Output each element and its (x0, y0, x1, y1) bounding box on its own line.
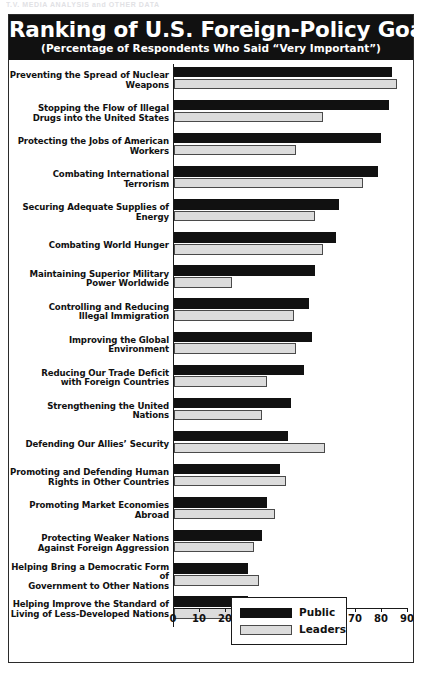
bar-group (173, 229, 413, 262)
legend-label-public: Public (299, 607, 335, 618)
category-label: Reducing Our Trade Deficitwith Foreign C… (9, 369, 173, 388)
bar-group (173, 494, 413, 527)
bar-leaders (174, 376, 267, 387)
axis-tick-label: 20 (218, 613, 232, 624)
bar-group (173, 329, 413, 362)
bar-leaders (174, 575, 259, 586)
axis-tick-label: 90 (400, 613, 414, 624)
chart-subtitle: (Percentage of Respondents Who Said “Ver… (9, 42, 413, 55)
axis-tick-label: 10 (192, 613, 206, 624)
chart-row: Improving the Global Environment (9, 329, 413, 362)
legend-item-public: Public (240, 605, 346, 620)
bar-group (173, 395, 413, 428)
chart-row: Promoting and Defending HumanRights in O… (9, 461, 413, 494)
bar-public (174, 497, 267, 508)
bar-public (174, 530, 262, 541)
category-label: Promoting Market Economies Abroad (9, 501, 173, 520)
category-label: Preventing the Spread of Nuclear Weapons (9, 71, 173, 90)
chart-row: Defending Our Allies’ Security (9, 428, 413, 461)
bar-leaders (174, 178, 363, 189)
chart-row: Controlling and ReducingIllegal Immigrat… (9, 296, 413, 329)
axis-tick-label: 0 (170, 613, 177, 624)
category-label: Helping Bring a Democratic Form ofGovern… (9, 563, 173, 592)
bar-group (173, 428, 413, 461)
axis-tick (355, 608, 356, 612)
axis-tick (225, 608, 226, 612)
bar-public (174, 464, 280, 475)
bar-leaders (174, 277, 232, 288)
chart-title: Ranking of U.S. Foreign-Policy Goals (9, 19, 413, 41)
bar-public (174, 67, 392, 78)
bar-leaders (174, 211, 315, 222)
bar-leaders (174, 509, 275, 520)
bar-public (174, 298, 309, 309)
category-label: Combating International Terrorism (9, 170, 173, 189)
bar-public (174, 365, 304, 376)
chart-row: Protecting the Jobs of American Workers (9, 130, 413, 163)
chart-row: Securing Adequate Supplies of Energy (9, 196, 413, 229)
category-label: Helping Improve the Standard ofLiving of… (9, 600, 173, 619)
legend-swatch-public (240, 608, 292, 618)
chart-row: Strengthening the United Nations (9, 395, 413, 428)
bar-public (174, 199, 339, 210)
bar-public (174, 332, 312, 343)
bar-group (173, 64, 413, 97)
legend-swatch-leaders (240, 625, 292, 635)
axis-tick (407, 608, 408, 612)
category-label: Combating World Hunger (9, 241, 173, 251)
bar-public (174, 398, 291, 409)
bar-leaders (174, 476, 286, 487)
bar-public (174, 265, 315, 276)
bar-group (173, 263, 413, 296)
chart-row: Helping Bring a Democratic Form ofGovern… (9, 560, 413, 593)
chart-legend: Public Leaders (231, 597, 347, 645)
bar-group (173, 163, 413, 196)
chart-row: Promoting Market Economies Abroad (9, 494, 413, 527)
axis-tick-label: 70 (348, 613, 362, 624)
bar-rows: Preventing the Spread of Nuclear Weapons… (9, 64, 413, 627)
category-label: Promoting and Defending HumanRights in O… (9, 468, 173, 487)
bar-leaders (174, 79, 397, 90)
bar-public (174, 166, 378, 177)
chart-row: Combating World Hunger (9, 229, 413, 262)
category-label: Controlling and ReducingIllegal Immigrat… (9, 303, 173, 322)
chart-row: Stopping the Flow of IllegalDrugs into t… (9, 97, 413, 130)
bar-group (173, 560, 413, 593)
bar-leaders (174, 244, 323, 255)
axis-tick-label: 80 (374, 613, 388, 624)
category-label: Protecting the Jobs of American Workers (9, 137, 173, 156)
category-label: Strengthening the United Nations (9, 402, 173, 421)
category-label: Maintaining Superior MilitaryPower World… (9, 270, 173, 289)
bar-public (174, 100, 389, 111)
category-label: Securing Adequate Supplies of Energy (9, 203, 173, 222)
chart-row: Protecting Weaker NationsAgainst Foreign… (9, 527, 413, 560)
legend-item-leaders: Leaders (240, 622, 346, 637)
bar-group (173, 196, 413, 229)
legend-label-leaders: Leaders (299, 624, 346, 635)
bar-group (173, 130, 413, 163)
chart-row: Combating International Terrorism (9, 163, 413, 196)
bar-leaders (174, 443, 325, 454)
category-label: Stopping the Flow of IllegalDrugs into t… (9, 104, 173, 123)
bar-group (173, 296, 413, 329)
bar-leaders (174, 145, 296, 156)
bar-leaders (174, 410, 262, 421)
bar-public (174, 133, 381, 144)
bar-leaders (174, 542, 254, 553)
bar-group (173, 461, 413, 494)
category-label: Defending Our Allies’ Security (9, 440, 173, 450)
chart-row: Preventing the Spread of Nuclear Weapons (9, 64, 413, 97)
axis-tick (381, 608, 382, 612)
running-head: T.V. MEDIA ANALYSIS and OTHER DATA (6, 0, 246, 9)
bar-leaders (174, 310, 294, 321)
chart-row: Reducing Our Trade Deficitwith Foreign C… (9, 362, 413, 395)
axis-tick (173, 608, 174, 612)
bar-leaders (174, 343, 296, 354)
bar-leaders (174, 112, 323, 123)
category-label: Protecting Weaker NationsAgainst Foreign… (9, 534, 173, 553)
bar-public (174, 431, 288, 442)
axis-tick (199, 608, 200, 612)
bar-public (174, 232, 336, 243)
category-label: Improving the Global Environment (9, 336, 173, 355)
bar-group (173, 97, 413, 130)
